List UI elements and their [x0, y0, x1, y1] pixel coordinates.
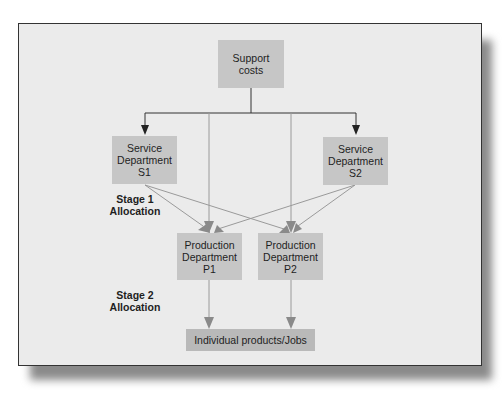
node-service-department-s2: Service Department S2 — [323, 137, 388, 185]
support-bus — [145, 88, 356, 126]
node-support-costs: Support costs — [218, 40, 284, 88]
arrow-to-s1 — [141, 125, 149, 135]
node-production-department-p1: Production Department P1 — [177, 233, 242, 280]
node-production-department-p2: Production Department P2 — [258, 233, 323, 280]
node-individual-products-jobs: Individual products/Jobs — [186, 329, 315, 351]
label-stage-2-allocation: Stage 2 Allocation — [100, 289, 170, 313]
node-service-department-s1: Service Department S1 — [112, 136, 177, 184]
arrow-to-s2 — [352, 125, 360, 135]
label-stage-1-allocation: Stage 1 Allocation — [100, 193, 170, 217]
